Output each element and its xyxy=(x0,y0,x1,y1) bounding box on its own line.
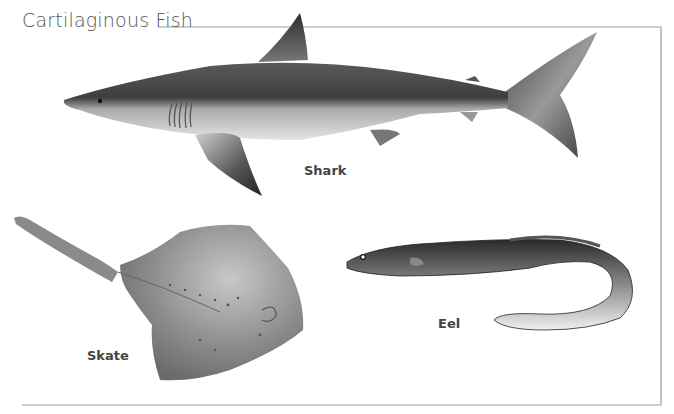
eel-eye xyxy=(361,255,366,260)
skate-label: Skate xyxy=(87,348,129,363)
shark-label: Shark xyxy=(304,163,346,178)
eel-body xyxy=(347,240,633,331)
eel-label: Eel xyxy=(438,316,460,331)
